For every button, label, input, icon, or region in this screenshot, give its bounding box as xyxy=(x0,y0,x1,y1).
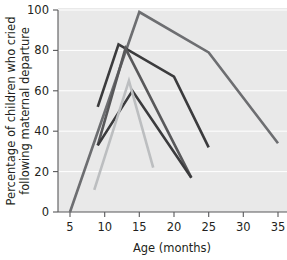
x-tick-label-15: 15 xyxy=(132,220,147,234)
y-tick-label-100: 100 xyxy=(27,3,49,17)
x-tick-label-25: 25 xyxy=(201,220,216,234)
x-tick-label-5: 5 xyxy=(66,220,73,234)
y-tick-label-20: 20 xyxy=(34,165,49,179)
x-axis-title: Age (months) xyxy=(133,241,211,255)
x-tick-label-10: 10 xyxy=(97,220,112,234)
y-tick-label-40: 40 xyxy=(34,124,49,138)
x-axis-ticks xyxy=(70,212,278,217)
y-axis-title-line2: following maternal departure xyxy=(18,27,32,195)
y-tick-label-80: 80 xyxy=(34,43,49,57)
x-tick-label-30: 30 xyxy=(236,220,251,234)
y-tick-label-60: 60 xyxy=(34,84,49,98)
x-tick-label-35: 35 xyxy=(271,220,286,234)
y-tick-label-0: 0 xyxy=(42,205,49,219)
x-tick-label-20: 20 xyxy=(167,220,182,234)
line-chart-svg: 100 80 60 40 20 0 5 10 15 20 25 30 35 Ag… xyxy=(0,0,287,260)
x-tick-labels: 5 10 15 20 25 30 35 xyxy=(66,220,285,234)
y-axis-title-line1: Percentage of children who cried xyxy=(4,17,18,206)
y-axis-ticks xyxy=(53,10,58,212)
chart-figure: 100 80 60 40 20 0 5 10 15 20 25 30 35 Ag… xyxy=(0,0,287,260)
